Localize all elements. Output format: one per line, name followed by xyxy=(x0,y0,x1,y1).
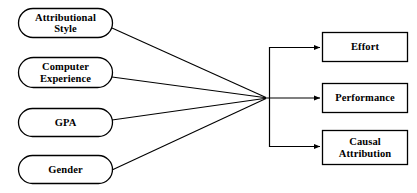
node-shape-effort xyxy=(323,33,408,62)
path-diagram: Attributional Style Computer Experience … xyxy=(0,0,417,193)
node-shape-gender xyxy=(19,156,113,184)
node-shape-computer-experience xyxy=(19,58,113,88)
node-shape-gpa xyxy=(19,109,113,137)
node-shape-attributional-style xyxy=(19,9,113,38)
diagram-canvas xyxy=(0,0,417,193)
node-shape-performance xyxy=(323,84,408,113)
node-shape-causal-attribution xyxy=(323,131,408,165)
